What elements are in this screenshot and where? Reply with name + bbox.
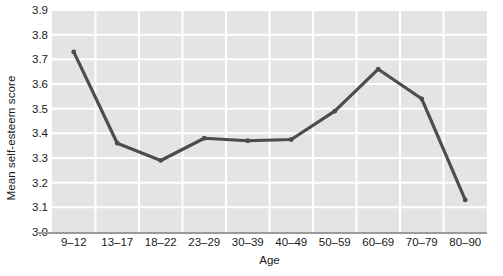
y-axis-title: Mean self-esteem score [0,0,22,276]
x-axis-tick-label: 13–17 [101,236,133,248]
x-axis-tick-label: 9–12 [61,236,87,248]
data-point-marker [463,198,468,203]
y-axis-tick-label: 3.2 [32,177,48,189]
y-axis-tick-label: 3.6 [32,78,48,90]
y-axis-tick-label: 3.8 [32,29,48,41]
data-point-marker [419,96,424,101]
data-point-marker [115,141,120,146]
data-point-marker [71,50,76,55]
data-point-marker [376,67,381,72]
x-axis-tick-labels: 9–1213–1718–2223–2930–3940–4950–5960–697… [52,236,487,254]
line-chart-svg [52,10,487,232]
x-axis-tick-label: 50–59 [319,236,351,248]
data-point-marker [158,158,163,163]
x-axis-tick-label: 30–39 [232,236,264,248]
vertical-gridlines [96,10,444,232]
x-axis-tick-label: 40–49 [275,236,307,248]
x-axis-tick-label: 23–29 [188,236,220,248]
x-axis-title: Age [52,254,487,266]
y-axis-tick-label: 3.3 [32,152,48,164]
x-axis-tick-label: 70–79 [406,236,438,248]
y-axis-tick-label: 3.1 [32,201,48,213]
y-axis-tick-label: 3.9 [32,4,48,16]
y-axis-tick-label: 3.5 [32,103,48,115]
y-axis-tick-label: 3.7 [32,53,48,65]
data-point-marker [289,137,294,142]
chart-figure: Mean self-esteem score 3.03.13.23.33.43.… [0,0,503,276]
x-axis-tick-label: 60–69 [362,236,394,248]
data-point-marker [202,136,207,141]
data-point-marker [332,109,337,114]
y-axis-tick-labels: 3.03.13.23.33.43.53.63.73.83.9 [22,10,48,232]
x-axis-tick-label: 18–22 [145,236,177,248]
x-axis-spine [36,232,487,234]
data-point-marker [245,138,250,143]
y-axis-tick-label: 3.4 [32,127,48,139]
plot-area [52,10,487,232]
x-axis-tick-label: 80–90 [449,236,481,248]
